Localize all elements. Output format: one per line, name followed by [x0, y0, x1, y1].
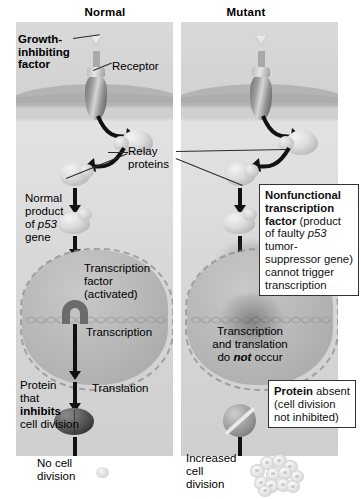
transcription-factor-activated-label: Transcription factor (activated) [84, 262, 166, 301]
relay-proteins-label: Relay proteins [128, 145, 176, 171]
single-cell-icon [96, 467, 109, 478]
black-down-arrow-icon [238, 188, 242, 206]
transcription-factor-icon [62, 300, 88, 324]
black-down-arrow-icon [73, 437, 77, 456]
no-transcription-translation-label: Transcription and translation do not occ… [194, 325, 306, 364]
black-down-arrow-icon [73, 324, 77, 372]
growth-inhibiting-factor-label: Growth- inhibiting factor [18, 33, 80, 71]
column-header-normal: Normal [55, 6, 155, 18]
triangle-ligand-icon [254, 36, 268, 47]
transcription-label: Transcription [86, 326, 152, 339]
inhibitor-protein-label: Protein that inhibits cell division [20, 379, 88, 431]
protein-absent-callout: Protein absent (cell division not inhibi… [268, 380, 356, 428]
relay-protein-blob-icon [223, 212, 255, 234]
column-header-mutant: Mutant [196, 6, 296, 18]
p53-pathway-figure: Normal Mutant [0, 0, 361, 499]
p53-product-label: Normal product of p53 gene [25, 192, 81, 244]
cell-cluster-icon [248, 452, 304, 498]
increased-cell-division-label: Increased cell division [186, 452, 246, 491]
nonfunctional-factor-callout: Nonfunctional transcription factor (prod… [259, 184, 359, 296]
dna-double-helix-icon [26, 314, 166, 326]
protein-absent-circle-slash-icon [223, 404, 256, 437]
receptor-label: Receptor [112, 60, 159, 73]
no-cell-division-label: No cell division [37, 457, 93, 483]
triangle-ligand-icon [89, 36, 103, 47]
translation-label: Translation [92, 382, 148, 395]
relay-protein-blob-icon [225, 162, 255, 186]
